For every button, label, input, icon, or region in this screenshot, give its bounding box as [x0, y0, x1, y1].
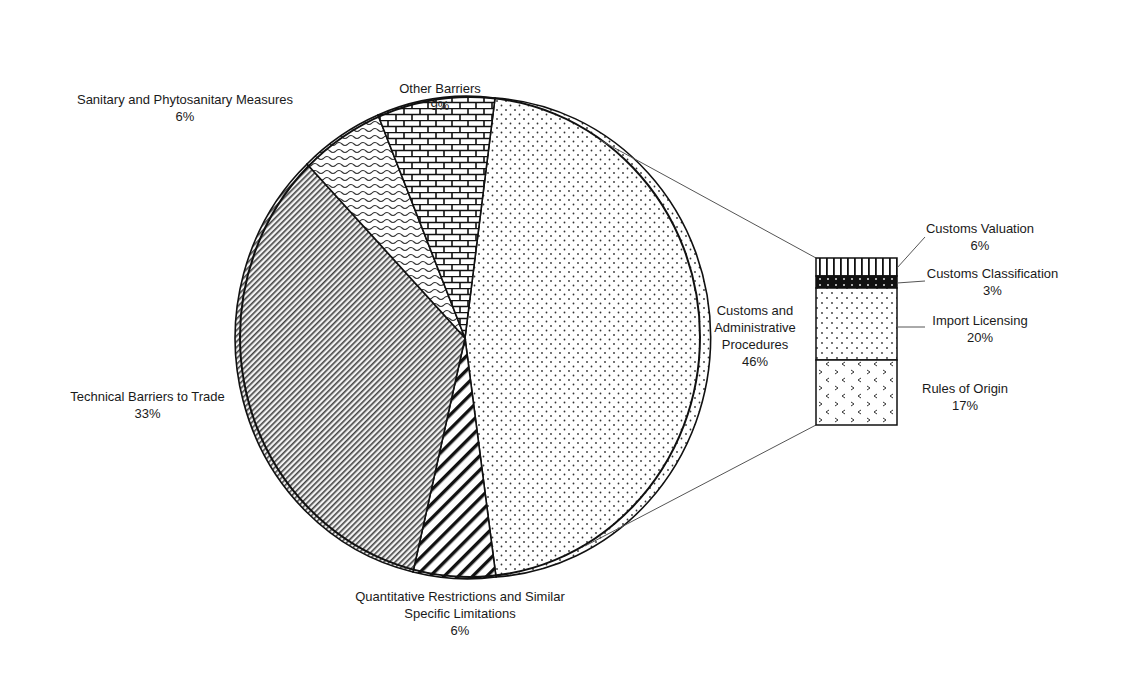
- label-sanitary-phytosanitary: Sanitary and Phytosanitary Measures 6%: [70, 91, 300, 125]
- slice-customs-administrative: [465, 98, 711, 577]
- label-customs-valuation: Customs Valuation 6%: [920, 220, 1040, 254]
- pie: [235, 96, 711, 579]
- label-rules-of-origin: Rules of Origin 17%: [915, 380, 1015, 414]
- bar-customs-classification: [816, 276, 897, 288]
- label-technical-barriers: Technical Barriers to Trade 33%: [55, 388, 240, 422]
- label-import-licensing: Import Licensing 20%: [925, 312, 1035, 346]
- label-other-barriers: Other Barriers 9%: [380, 80, 500, 114]
- label-quantitative-restrictions: Quantitative Restrictions and Similar Sp…: [320, 588, 600, 639]
- bar-import-licensing: [816, 288, 897, 360]
- bar-customs-valuation: [816, 258, 897, 276]
- breakdown-bar: [816, 258, 897, 425]
- label-customs-administrative: Customs and Administrative Procedures 46…: [700, 302, 810, 370]
- bar-rules-of-origin: [816, 360, 897, 425]
- label-customs-classification: Customs Classification 3%: [920, 265, 1065, 299]
